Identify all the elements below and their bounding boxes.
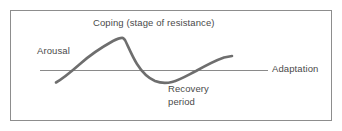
label-coping: Coping (stage of resistance): [93, 17, 215, 29]
label-adaptation: Adaptation: [272, 63, 318, 75]
stress-response-curve: [56, 38, 232, 83]
figure-canvas: Arousal Coping (stage of resistance) Rec…: [0, 0, 342, 131]
label-recovery-period: Recovery period: [168, 83, 232, 108]
label-arousal: Arousal: [37, 45, 70, 57]
